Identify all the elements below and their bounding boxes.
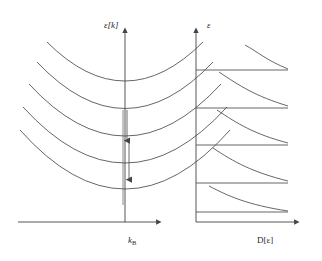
right-panel: ε D[ε]: [196, 20, 295, 245]
left-y-axis-label: ε[k]: [104, 20, 119, 30]
dos-curve-2: [219, 72, 288, 106]
dos-curve-3: [217, 110, 288, 143]
dos-curve-1: [245, 45, 288, 69]
dos-curve-4: [213, 148, 288, 181]
right-x-axis-label: D[ε]: [257, 235, 273, 245]
quantum-wire-figure: ε[k] kB: [0, 0, 322, 261]
transition-arrows: [123, 110, 129, 205]
dos-curve-5: [209, 186, 288, 211]
figure-canvas: ε[k] kB: [0, 0, 322, 261]
dos-step-lines: [196, 70, 288, 212]
left-x-axis-label: kB: [128, 235, 137, 246]
right-y-axis-label: ε: [207, 20, 211, 30]
